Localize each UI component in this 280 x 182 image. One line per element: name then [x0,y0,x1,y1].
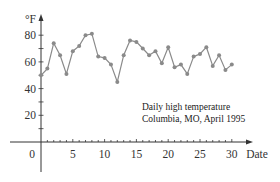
data-point [122,53,126,57]
x-tick-label: 10 [99,148,111,160]
data-point [109,63,113,67]
data-point [77,44,81,48]
temperature-line-chart: 051015202530Date20406080°F Daily high te… [0,0,280,182]
x-tick-label: 5 [70,148,76,160]
axis-tick-labels: 051015202530Date20406080°F [25,13,268,160]
data-point [64,72,68,76]
y-tick-label: 20 [25,109,37,121]
data-point [71,49,75,53]
data-point [173,65,177,69]
data-point [192,55,196,59]
data-point [52,41,56,45]
data-point [45,67,49,71]
data-point [90,32,94,36]
data-series [39,32,234,84]
data-point [217,53,221,57]
y-tick-label: 60 [25,56,37,68]
data-point [230,63,234,67]
data-point [160,61,164,65]
y-axis-arrow-icon [39,14,44,21]
data-point [198,52,202,56]
data-point [103,56,107,60]
data-point [211,64,215,68]
y-axis-title: °F [25,13,36,25]
data-point [179,63,183,67]
data-point [84,33,88,37]
data-point [147,53,151,57]
data-point [134,40,138,44]
data-point [39,73,43,77]
chart-annotation: Daily high temperatureColumbia, MO, Apri… [142,102,245,124]
annotation-line: Columbia, MO, April 1995 [142,114,245,124]
x-tick-label: 15 [131,148,143,160]
data-point [96,55,100,59]
x-tick-label: 0 [29,148,35,160]
y-tick-label: 40 [25,83,37,95]
data-point [58,53,62,57]
data-point [223,68,227,72]
data-point [153,49,157,53]
annotation-line: Daily high temperature [142,102,230,112]
data-point [166,45,170,49]
x-axis-arrow-icon [246,140,253,145]
data-point [185,72,189,76]
x-tick-label: 25 [194,148,206,160]
data-point [141,47,145,51]
data-point [128,39,132,43]
x-axis-title: Date [246,148,268,160]
x-tick-label: 30 [226,148,238,160]
data-point [204,45,208,49]
x-tick-label: 20 [162,148,174,160]
data-point [115,80,119,84]
y-tick-label: 80 [25,29,37,41]
